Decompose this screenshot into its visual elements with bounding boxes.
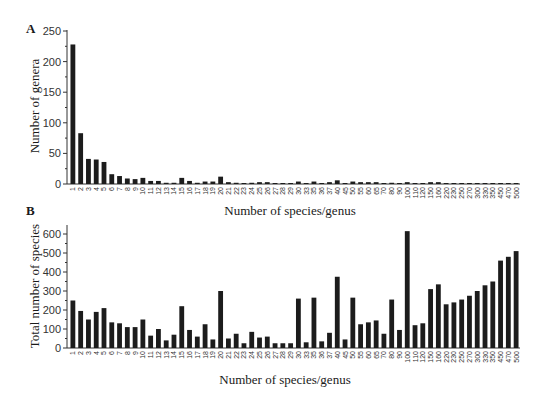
chart-b-x-tick-label: 17 [194, 351, 201, 359]
chart-b-bar [78, 311, 83, 348]
chart-b-bar [210, 339, 215, 348]
chart-b-x-tick-label: 270 [466, 351, 473, 363]
chart-b-x-tick-label: 80 [388, 351, 395, 359]
chart-b-bar [117, 323, 122, 348]
chart-b-x-tick-label: 19 [209, 351, 216, 359]
chart-b-x-tick-label: 30 [295, 351, 302, 359]
chart-b-bar [319, 341, 324, 348]
chart-b-x-tick-label: 350 [489, 351, 496, 363]
chart-b-bar [304, 342, 309, 348]
chart-b-bar [436, 284, 441, 348]
chart-b-y-tick-label: 200 [43, 304, 61, 316]
chart-b-x-tick-label: 220 [443, 351, 450, 363]
chart-b-bar [164, 340, 169, 348]
chart-b-x-tick-label: 14 [170, 351, 177, 359]
chart-b-bar [288, 343, 293, 348]
chart-b-bar [374, 320, 379, 348]
chart-b-bar [358, 324, 363, 348]
chart-b-x-tick-label: 9 [132, 351, 139, 355]
chart-b-bar [280, 343, 285, 348]
chart-b-x-tick-label: 60 [365, 351, 372, 359]
chart-b-bar [490, 282, 495, 349]
chart-b-bar [102, 308, 107, 348]
chart-b-bar [413, 325, 418, 348]
chart-b-x-tick-label: 65 [373, 351, 380, 359]
chart-b-x-tick-label: 26 [264, 351, 271, 359]
chart-b-bar [428, 289, 433, 348]
chart-b-bar [70, 301, 75, 349]
chart-b-bar [483, 285, 488, 348]
chart-b-bar [459, 300, 464, 348]
chart-b-bar [257, 338, 262, 348]
chart-b-bar [172, 335, 177, 348]
chart-b-x-tick-label: 33 [303, 351, 310, 359]
chart-b-y-tick-label: 600 [43, 228, 61, 240]
chart-b-x-tick-label: 500 [513, 351, 520, 363]
chart-b-x-tick-label: 16 [186, 351, 193, 359]
chart-b-x-tick-label: 20 [217, 351, 224, 359]
chart-b-x-tick-label: 22 [233, 351, 240, 359]
chart-b-x-tick-label: 3 [85, 351, 92, 355]
chart-b-x-tick-label: 29 [287, 351, 294, 359]
chart-b-bar [312, 298, 317, 348]
chart-b-bar [125, 327, 130, 348]
chart-b-x-tick-label: 470 [505, 351, 512, 363]
chart-b-y-tick-label: 100 [43, 323, 61, 335]
chart-b-y-tick-label: 0 [55, 342, 61, 354]
chart-b-bar [94, 312, 99, 348]
chart-b-x-tick-label: 40 [334, 351, 341, 359]
chart-b-bar [451, 302, 456, 348]
chart-b-x-tick-label: 50 [349, 351, 356, 359]
chart-b-bar [109, 322, 114, 348]
chart-b-bar [467, 296, 472, 348]
chart-b-x-tick-label: 330 [482, 351, 489, 363]
chart-b-bar [140, 320, 145, 349]
chart-b-x-tick-label: 24 [248, 351, 255, 359]
chart-b-x-tick-label: 110 [412, 351, 419, 362]
chart-b-x-tick-label: 10 [139, 351, 146, 359]
chart-b-x-tick-label: 37 [326, 351, 333, 359]
chart-b-bar [382, 334, 387, 348]
chart-b-x-tick-label: 230 [450, 351, 457, 363]
chart-b-bar [148, 336, 153, 348]
chart-b-y-tick-label: 500 [43, 247, 61, 259]
chart-b-x-tick-label: 25 [256, 351, 263, 359]
chart-b-bar [156, 329, 161, 348]
chart-b-x-tick-label: 23 [240, 351, 247, 359]
chart-b-bar [405, 231, 410, 348]
chart-b-x-tick-label: 70 [380, 351, 387, 359]
chart-b-x-tick-label: 8 [124, 351, 131, 355]
chart-b-bar [444, 304, 449, 348]
chart-b-x-tick-label: 28 [279, 351, 286, 359]
chart-b-bar [420, 323, 425, 348]
chart-b-x-tick-label: 5 [100, 351, 107, 355]
chart-b-bar [242, 343, 247, 348]
chart-b-x-tick-label: 21 [225, 351, 232, 359]
chart-b-bar [475, 291, 480, 348]
chart-b-bar [397, 330, 402, 348]
chart-b-bar [234, 334, 239, 348]
chart-b-bar [389, 300, 394, 348]
chart-b-bar [335, 277, 340, 348]
chart-b-x-tick-label: 13 [163, 351, 170, 359]
chart-b-x-tick-label: 18 [202, 351, 209, 359]
chart-b-x-tick-label: 90 [396, 351, 403, 359]
chart-b-x-tick-label: 12 [155, 351, 162, 359]
chart-b-x-tick-label: 300 [474, 351, 481, 363]
chart-b-x-tick-label: 2 [77, 351, 84, 355]
chart-b-bar [350, 298, 355, 348]
chart-b-x-tick-label: 35 [310, 351, 317, 359]
chart-b-x-tick-label: 1 [69, 351, 76, 355]
chart-b-bar [343, 339, 348, 348]
chart-b-bar [296, 299, 301, 348]
chart-b-x-tick-label: 450 [497, 351, 504, 363]
chart-b-x-tick-label: 7 [116, 351, 123, 355]
chart-b-x-tick-label: 160 [435, 351, 442, 363]
chart-b-bar [195, 337, 200, 348]
chart-b-y-tick-label: 400 [43, 266, 61, 278]
chart-b-bar [265, 337, 270, 348]
chart-b-y-tick-label: 300 [43, 285, 61, 297]
chart-b-x-tick-label: 36 [318, 351, 325, 359]
chart-b-bar [187, 330, 192, 348]
chart-b-bar [203, 324, 208, 348]
